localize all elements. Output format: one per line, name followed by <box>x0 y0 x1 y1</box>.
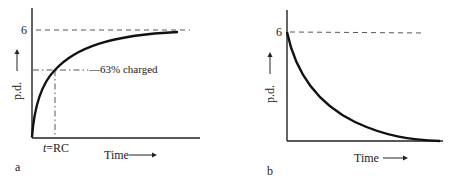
panel-b-label: b <box>267 165 273 177</box>
panel-b-y-axis-label: p.d. <box>264 85 276 103</box>
panel-a-pd-arrow-icon <box>15 49 20 71</box>
panel-a-x-marker: t=RC <box>43 142 69 154</box>
panel-b-time-arrow-icon <box>383 156 408 161</box>
panel-b-axes <box>287 10 443 141</box>
diagram-canvas <box>0 0 450 184</box>
panel-b-pd-arrow-icon <box>268 52 273 74</box>
charging-curve <box>32 32 178 137</box>
panel-a-x-axis-label: Time <box>104 149 129 161</box>
panel-b-x-axis-label: Time <box>354 152 379 164</box>
panel-b-max-line <box>290 32 425 33</box>
panel-a-annotation: —63% charged <box>89 64 158 75</box>
panel-a-label: a <box>15 161 20 173</box>
x-marker-value: =RC <box>46 141 69 155</box>
panel-a-time-arrow-icon <box>129 153 157 158</box>
panel-b-y-tick: 6 <box>276 26 282 38</box>
annotation-text: 63% charged <box>100 63 158 75</box>
discharging-curve <box>287 32 440 141</box>
panel-a-y-axis-label: p.d. <box>11 82 23 100</box>
panel-a-y-tick: 6 <box>21 24 27 36</box>
